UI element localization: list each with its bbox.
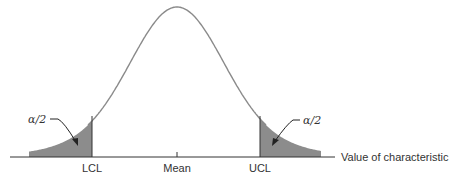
left-alpha-label: α/2 xyxy=(28,113,46,126)
lcl-label: LCL xyxy=(82,162,102,174)
right-alpha-label: α/2 xyxy=(303,114,321,127)
ucl-label: UCL xyxy=(249,162,271,174)
control-limits-diagram: LCL Mean UCL Value of characteristic α/2… xyxy=(0,0,450,185)
mean-label: Mean xyxy=(163,162,191,174)
normal-curve xyxy=(88,7,266,125)
left-tail-shading xyxy=(29,121,92,157)
axis-label: Value of characteristic xyxy=(341,151,449,163)
